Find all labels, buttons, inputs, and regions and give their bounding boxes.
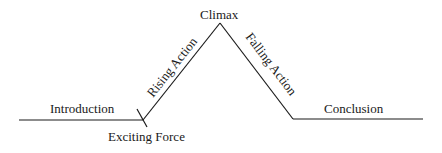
conclusion-label: Conclusion (324, 101, 384, 116)
rising-action-label: Rising Action (144, 34, 201, 100)
climax-label: Climax (200, 7, 239, 22)
introduction-label: Introduction (50, 101, 115, 116)
exciting-force-tick (137, 109, 147, 127)
plot-structure-diagram: Introduction Exciting Force Rising Actio… (0, 0, 442, 153)
rising-action-line (143, 23, 220, 120)
exciting-force-label: Exciting Force (108, 129, 185, 144)
